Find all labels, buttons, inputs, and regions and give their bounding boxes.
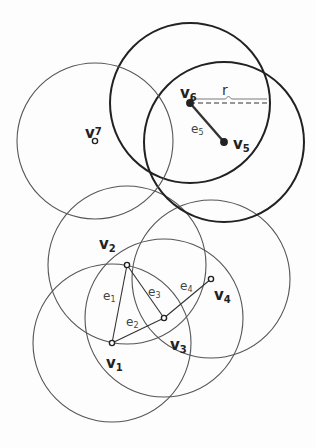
vertex-v2	[124, 262, 129, 267]
edges: e1e2e3e4e5	[103, 103, 224, 343]
vertex-label-v1: v1	[106, 354, 123, 373]
edge-label-e1: e1	[103, 289, 115, 304]
vertex-label-v6: v6	[180, 84, 197, 103]
vertex-v4	[208, 276, 213, 281]
vertex-label-v2: v2	[99, 235, 116, 254]
vertices: v1v2v3v4v5v6v7	[85, 84, 250, 373]
vertex-label-v3: v3	[170, 336, 187, 355]
diagram-svg: re1e2e3e4e5v1v2v3v4v5v6v7	[0, 0, 316, 448]
edge-e1	[112, 265, 127, 343]
radius-annotation: r	[190, 82, 267, 103]
edge-label-e3: e3	[148, 285, 160, 300]
radius-label: r	[222, 82, 228, 98]
edge-label-e5: e5	[191, 122, 203, 137]
edge-label-e2: e2	[126, 315, 138, 330]
vertex-v3	[161, 315, 166, 320]
vertex-label-v5: v5	[233, 135, 250, 154]
vertex-label-v4: v4	[214, 286, 231, 305]
radius-brace	[190, 96, 267, 99]
edge-label-e4: e4	[180, 279, 192, 294]
range-circles	[17, 23, 304, 422]
vertex-v1	[109, 340, 114, 345]
unit-disk-graph-diagram: re1e2e3e4e5v1v2v3v4v5v6v7	[0, 0, 316, 448]
vertex-v5	[221, 139, 227, 145]
vertex-label-v7: v7	[85, 124, 102, 142]
